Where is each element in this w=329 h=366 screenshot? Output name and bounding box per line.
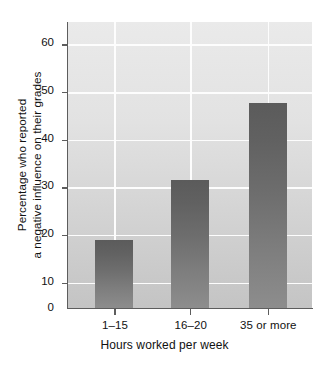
y-axis-title: Percentage who reported a negative influ… <box>12 22 46 308</box>
y-axis-line <box>67 22 68 309</box>
bar-chart: 60 50 40 30 20 10 0 1–15 16–20 35 or mor… <box>0 0 329 366</box>
y-tick-mark-10 <box>62 283 67 284</box>
bar-35-or-more <box>249 103 287 308</box>
y-tick-label-50: 50 <box>41 84 54 96</box>
y-tick-label-0: 0 <box>48 301 54 313</box>
y-tick-mark-50 <box>62 92 67 93</box>
x-tick-mark-3 <box>268 309 269 315</box>
y-tick-label-20: 20 <box>41 227 54 239</box>
y-tick-mark-60 <box>62 44 67 45</box>
x-tick-label-3: 35 or more <box>240 319 297 331</box>
plot-area <box>68 22 312 308</box>
x-tick-mark-1 <box>114 309 115 315</box>
y-tick-label-40: 40 <box>41 132 54 144</box>
y-tick-label-60: 60 <box>41 36 54 48</box>
bar-1-15 <box>95 240 133 308</box>
x-tick-label-1: 1–15 <box>102 319 128 331</box>
y-tick-label-10: 10 <box>41 275 54 287</box>
y-tick-mark-20 <box>62 235 67 236</box>
y-tick-mark-30 <box>62 187 67 188</box>
x-axis-title: Hours worked per week <box>0 338 329 352</box>
x-tick-label-2: 16–20 <box>174 319 206 331</box>
y-tick-label-30: 30 <box>41 179 54 191</box>
bar-16-20 <box>171 180 209 308</box>
y-axis-title-line-1: Percentage who reported <box>14 72 29 259</box>
y-tick-mark-40 <box>62 140 67 141</box>
x-tick-mark-2 <box>190 309 191 315</box>
